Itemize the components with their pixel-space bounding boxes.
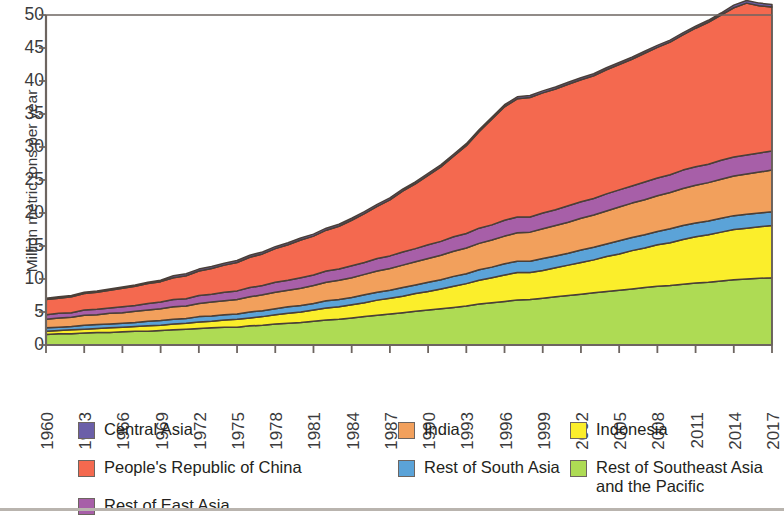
legend-label: Rest of East Asia — [104, 496, 230, 515]
legend-swatch-icon — [570, 460, 587, 477]
legend-label: Rest of South Asia — [424, 458, 560, 477]
legend-item[interactable]: India — [398, 420, 460, 439]
legend-label: Rest of Southeast Asia and the Pacific — [596, 458, 763, 496]
legend-swatch-icon — [398, 422, 415, 439]
legend-label: India — [424, 420, 460, 439]
legend-label: Central Asia — [104, 420, 193, 439]
legend-swatch-icon — [78, 498, 95, 515]
legend-swatch-icon — [78, 460, 95, 477]
page-bottom-rule — [0, 508, 784, 511]
legend-item[interactable]: Central Asia — [78, 420, 193, 439]
area-series-group — [46, 0, 772, 345]
x-axis-tick-labels: 1960196319661969197219751978198119841987… — [0, 352, 784, 414]
legend-item[interactable]: Indonesia — [570, 420, 668, 439]
legend-swatch-icon — [78, 422, 95, 439]
plot-area — [0, 0, 784, 360]
legend-label: Indonesia — [596, 420, 668, 439]
legend-item[interactable]: Rest of South Asia — [398, 458, 560, 477]
legend-item[interactable]: Rest of Southeast Asia and the Pacific — [570, 458, 763, 496]
legend-item[interactable]: Rest of East Asia — [78, 496, 230, 515]
legend-swatch-icon — [398, 460, 415, 477]
legend-label: People's Republic of China — [104, 458, 302, 477]
legend-item[interactable]: People's Republic of China — [78, 458, 302, 477]
legend-swatch-icon — [570, 422, 587, 439]
chart-legend: Central AsiaPeople's Republic of ChinaRe… — [0, 414, 784, 514]
